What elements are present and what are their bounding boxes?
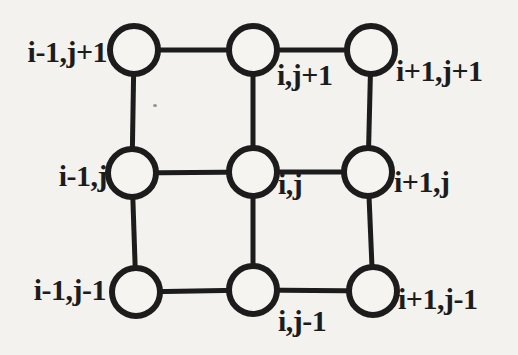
node-label-i-1,j: i-1,j: [59, 159, 107, 192]
grid-node-i+1,j-1: [349, 267, 397, 315]
grid-node-i+1,j: [344, 148, 392, 196]
node-label-i,j+1: i,j+1: [277, 58, 332, 91]
grid-node-i,j: [229, 148, 277, 196]
node-label-i+1,j-1: i+1,j-1: [398, 282, 477, 315]
scanned-figure-page: i-1,j+1i,j+1i+1,j+1i-1,ji,ji+1,ji-1,j-1i…: [0, 0, 518, 355]
node-label-i+1,j+1: i+1,j+1: [396, 54, 483, 87]
grid-node-i-1,j: [108, 149, 156, 197]
grid-node-i-1,j-1: [112, 268, 160, 316]
grid-node-i,j+1: [229, 26, 277, 74]
node-label-i-1,j-1: i-1,j-1: [34, 273, 106, 306]
node-label-i,j-1: i,j-1: [278, 304, 326, 337]
scan-speck: [153, 104, 157, 107]
grid-node-i+1,j+1: [347, 26, 395, 74]
grid-node-i,j-1: [229, 266, 277, 314]
grid-node-i-1,j+1: [110, 26, 158, 74]
node-label-i-1,j+1: i-1,j+1: [28, 35, 107, 68]
node-label-i+1,j: i+1,j: [394, 165, 449, 198]
node-layer: [108, 26, 397, 316]
stencil-diagram: i-1,j+1i,j+1i+1,j+1i-1,ji,ji+1,ji-1,j-1i…: [0, 0, 518, 355]
node-label-i,j: i,j: [278, 167, 302, 200]
